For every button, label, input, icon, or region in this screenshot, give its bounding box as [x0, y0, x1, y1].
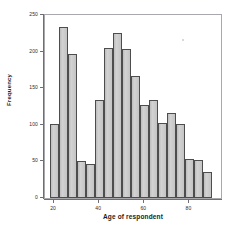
y-axis-tick	[40, 160, 44, 161]
y-axis-tick-label: 50	[32, 157, 38, 163]
x-axis-tick-label: 60	[140, 205, 146, 211]
histogram-bar	[77, 161, 86, 198]
histogram-bar	[149, 100, 158, 198]
histogram-bar	[113, 33, 122, 198]
histogram-bar	[140, 105, 149, 198]
x-axis-tick	[53, 199, 54, 203]
x-axis-tick-label: 20	[50, 205, 56, 211]
histogram-bar	[122, 49, 131, 198]
bars-layer	[45, 15, 221, 198]
y-axis-tick-label: 0	[35, 194, 38, 200]
y-axis-tick-label: 250	[29, 11, 38, 17]
y-axis-tick-label: 200	[29, 48, 38, 54]
histogram-bar	[176, 124, 185, 198]
y-axis: 050100150200250	[43, 14, 44, 199]
y-axis-tick	[40, 197, 44, 198]
histogram-bar	[59, 27, 68, 198]
x-axis-title: Age of respondent	[44, 213, 222, 220]
y-axis-tick-label: 100	[29, 121, 38, 127]
x-axis-tick	[188, 199, 189, 203]
x-axis: 20406080	[44, 199, 222, 200]
x-axis-tick-label: 40	[95, 205, 101, 211]
histogram-bar	[95, 100, 104, 198]
histogram-bar	[194, 160, 203, 198]
x-axis-tick-label: 80	[186, 205, 192, 211]
histogram-bar	[131, 76, 140, 198]
y-axis-tick-label: 150	[29, 84, 38, 90]
y-axis-tick	[40, 87, 44, 88]
x-axis-tick	[143, 199, 144, 203]
y-axis-tick	[40, 124, 44, 125]
decorative-speck	[182, 39, 184, 41]
plot-frame	[44, 14, 222, 199]
x-axis-tick	[98, 199, 99, 203]
y-axis-tick	[40, 51, 44, 52]
histogram-bar	[158, 123, 167, 198]
histogram-bar	[50, 124, 59, 198]
histogram-bar	[167, 113, 176, 198]
y-axis-title: Frequency	[6, 74, 12, 106]
histogram-bar	[86, 164, 95, 198]
histogram-bar	[104, 48, 113, 198]
histogram-bar	[203, 172, 212, 198]
histogram-bar	[68, 54, 77, 198]
histogram-chart: 050100150200250 20406080 Age of responde…	[0, 0, 235, 233]
histogram-bar	[185, 159, 194, 198]
y-axis-tick	[40, 14, 44, 15]
